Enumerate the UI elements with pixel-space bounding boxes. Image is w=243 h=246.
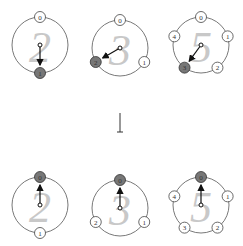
state-label: 0 <box>118 177 122 185</box>
state-label: 1 <box>226 33 230 41</box>
hand-pivot <box>199 203 203 207</box>
state-label: 2 <box>216 64 220 72</box>
state-label: 3 <box>183 224 187 232</box>
state-label: 0 <box>199 174 203 182</box>
transition-arrow <box>117 113 123 132</box>
state-label: 2 <box>94 219 98 227</box>
hand-pivot <box>38 203 42 207</box>
top-dial-3: 3012 <box>90 15 149 77</box>
state-label: 1 <box>38 70 42 78</box>
state-label: 1 <box>38 230 42 238</box>
hand-pivot <box>38 43 42 47</box>
hand-pivot <box>118 206 122 210</box>
hand-pivot <box>118 46 122 50</box>
state-label: 0 <box>118 17 122 25</box>
bottom-dial-3: 3012 <box>90 175 149 237</box>
state-label: 2 <box>94 59 98 67</box>
state-label: 3 <box>183 64 187 72</box>
state-label: 1 <box>226 193 230 201</box>
state-label: 1 <box>142 59 146 67</box>
diagram-canvas: 20130125012342013012501234 <box>0 0 243 246</box>
state-label: 0 <box>38 14 42 22</box>
hand-pivot <box>199 43 203 47</box>
state-label: 1 <box>142 219 146 227</box>
state-label: 2 <box>216 224 220 232</box>
top-dial-2: 201 <box>12 12 68 79</box>
state-label: 0 <box>38 174 42 182</box>
top-dial-5: 501234 <box>169 12 233 74</box>
state-label: 0 <box>199 14 203 22</box>
state-label: 4 <box>173 193 177 201</box>
clock-diagram: 20130125012342013012501234 <box>0 0 243 246</box>
bottom-dial-2: 201 <box>12 172 68 239</box>
state-label: 4 <box>173 33 177 41</box>
bottom-dial-5: 501234 <box>169 172 233 234</box>
